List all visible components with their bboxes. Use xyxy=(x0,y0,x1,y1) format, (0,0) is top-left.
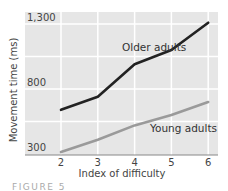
y-tick-label: 300 xyxy=(27,142,46,153)
y-tick-label: 1,300 xyxy=(27,12,56,23)
figure-caption: FIGURE 5 xyxy=(12,182,66,191)
x-tick-label: 3 xyxy=(95,157,101,168)
x-axis-ticks: 23456 xyxy=(58,157,212,168)
older-adults-label: Older adults xyxy=(122,41,186,53)
y-tick-label: 800 xyxy=(27,77,46,88)
line-chart: 1,300800300 23456 Older adults Young adu… xyxy=(0,0,228,191)
x-tick-label: 4 xyxy=(131,157,137,168)
y-axis-label: Movement time (ms) xyxy=(8,38,19,143)
x-tick-label: 5 xyxy=(168,157,174,168)
x-axis-label: Index of difficulty xyxy=(79,168,166,179)
x-tick-label: 6 xyxy=(205,157,211,168)
young-adults-label: Young adults xyxy=(149,122,217,134)
x-tick-label: 2 xyxy=(58,157,64,168)
